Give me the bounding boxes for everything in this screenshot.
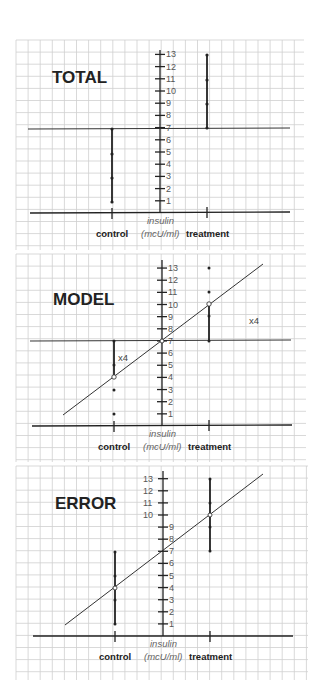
y-tick-label: 9 <box>166 98 171 108</box>
y-tick-label: 12 <box>143 486 153 496</box>
y-tick-label: 10 <box>166 86 176 96</box>
y-tick-label: 2 <box>166 184 171 194</box>
group-label-control: control <box>99 651 131 662</box>
panel-title: MODEL <box>53 290 114 309</box>
y-ticks: 12345678910111213 <box>143 474 174 629</box>
panel-total: TOTAL 12345678910111213 insulin control … <box>28 49 290 239</box>
y-tick-label: 8 <box>169 534 174 544</box>
y-tick-label: 11 <box>143 498 152 508</box>
y-tick-label: 3 <box>166 171 171 181</box>
y-tick-label: 5 <box>166 147 171 157</box>
y-tick-label: 11 <box>168 287 177 297</box>
group-label-treatment: treatment <box>188 441 232 452</box>
axis-label-units: (mcU/ml) <box>141 228 180 239</box>
y-tick-label: 8 <box>166 110 171 120</box>
panel-title: ERROR <box>55 494 116 513</box>
axis-label-insulin: insulin <box>149 428 176 439</box>
y-tick-label: 6 <box>168 348 173 358</box>
y-tick-label: 7 <box>168 336 173 346</box>
axis-label-insulin: insulin <box>150 638 177 649</box>
y-tick-label: 6 <box>166 135 171 145</box>
grand-mean-marker <box>160 339 164 343</box>
group-label-treatment: treatment <box>186 228 230 239</box>
y-tick-label: 10 <box>143 510 153 520</box>
y-tick-label: 11 <box>166 74 175 84</box>
y-ticks: 12345678910111213 <box>155 49 176 205</box>
axis-label-insulin: insulin <box>147 215 174 226</box>
control-mean-marker <box>112 375 116 379</box>
y-tick-label: 4 <box>168 372 173 382</box>
y-tick-label: 2 <box>169 607 174 617</box>
axis-label-units: (mcU/ml) <box>143 441 182 452</box>
y-tick-label: 12 <box>166 62 176 72</box>
treatment-mean-marker <box>208 513 212 517</box>
y-tick-label: 1 <box>169 619 174 629</box>
group-label-treatment: treatment <box>189 651 233 662</box>
group-label-control: control <box>98 441 130 452</box>
treatment-multiplier-label: x4 <box>249 315 259 326</box>
y-tick-label: 4 <box>166 159 171 169</box>
group-label-control: control <box>96 228 128 239</box>
y-tick-label: 7 <box>169 546 174 556</box>
y-tick-label: 6 <box>169 558 174 568</box>
y-tick-label: 9 <box>168 312 173 322</box>
y-tick-label: 3 <box>168 385 173 395</box>
y-tick-label: 13 <box>166 49 176 59</box>
y-tick-label: 5 <box>169 571 174 581</box>
y-tick-label: 7 <box>166 123 171 133</box>
panel-error: ERROR 12345678910111213 insulin control … <box>33 471 293 662</box>
y-tick-label: 13 <box>168 263 178 273</box>
treatment-mean-marker <box>207 302 211 306</box>
y-tick-label: 5 <box>168 360 173 370</box>
panel-title: TOTAL <box>52 68 107 87</box>
y-tick-label: 1 <box>166 196 171 206</box>
y-tick-label: 10 <box>168 300 178 310</box>
axis-label-units: (mcU/ml) <box>144 651 183 662</box>
y-tick-label: 3 <box>169 595 174 605</box>
y-tick-label: 8 <box>168 324 173 334</box>
control-mean-marker <box>113 586 117 590</box>
y-tick-label: 13 <box>143 474 153 484</box>
control-multiplier-label: x4 <box>118 352 128 363</box>
y-tick-label: 2 <box>168 397 173 407</box>
y-tick-label: 9 <box>169 522 174 532</box>
y-tick-label: 12 <box>168 275 178 285</box>
y-tick-label: 1 <box>168 409 173 419</box>
y-tick-label: 4 <box>169 583 174 593</box>
figure: TOTAL 12345678910111213 insulin control … <box>0 0 319 699</box>
